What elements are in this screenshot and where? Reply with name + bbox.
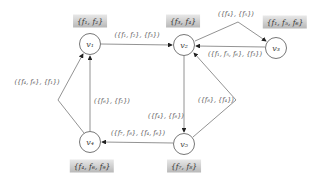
- set-v2: {f₃, f₄}: [166, 15, 200, 28]
- edge-label-v2-v3: ({f₄}, {f₅}): [218, 10, 254, 18]
- set-v5: {f₇, f₈}: [167, 160, 201, 173]
- set-v3: {f₁, f₅, f₆}: [263, 16, 307, 29]
- set-v1: {f₁, f₂}: [73, 15, 107, 28]
- edge-label-v5-v4: ({f₇, f₈}, {f₄, f₆}): [111, 129, 165, 137]
- edge-v3-v2: [196, 46, 265, 47]
- node-v1: v₁: [79, 33, 101, 55]
- node-v4: v₄: [79, 131, 101, 153]
- edge-label-v2-v5: ({f₄}, {f₈}): [148, 112, 184, 120]
- node-v5: v₅: [173, 133, 195, 155]
- node-v2: v₂: [173, 34, 195, 56]
- edge-label-v4-v1-straight: ({f₆}, {f₂}): [94, 97, 130, 105]
- edge-v1-v2: [101, 44, 172, 45]
- edge-label-v5-v2: ({f₈}, {f₄}): [198, 96, 234, 104]
- edge-v2-v3: [195, 22, 266, 41]
- node-v3: v₃: [265, 37, 287, 59]
- edge-v5-v2: [193, 53, 236, 137]
- edge-v4-v1-bent: [58, 54, 84, 133]
- edge-label-v3-v2: ({f₁, f₅, f₆}, {f₃}): [208, 50, 262, 58]
- edge-label-v1-v2: ({f₁, f₂}, {f₃}): [115, 31, 160, 39]
- edge-v5-v4: [102, 142, 173, 143]
- graph-diagram: v₁ v₂ v₃ v₄ v₅ {f₁, f₂} {f₃, f₄} {f₁, f₅…: [0, 0, 323, 182]
- set-v4: {f₄, f₆, f₉}: [70, 160, 114, 173]
- edge-label-v4-v1-bent: ({f₄, f₆}, {f₁}): [15, 78, 60, 86]
